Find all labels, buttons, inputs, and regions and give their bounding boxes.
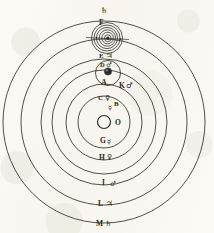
label-E: E [99, 52, 104, 60]
jupiter-symbol-E: ♃ [106, 51, 113, 60]
label-M: M [96, 219, 103, 228]
label-I: I [102, 178, 105, 187]
orbit-circle-C [66, 84, 142, 160]
saturn-symbol-top: ♄ [100, 6, 107, 15]
label-D: D [100, 61, 105, 68]
earth-body-highlight [106, 69, 108, 71]
venus-symbol-H: ♀ [107, 153, 112, 161]
label-L: L [98, 199, 103, 208]
venus-symbol-C: ♀ [105, 94, 110, 102]
mars-symbol-K: ♂ [126, 81, 133, 90]
sun-label: O [115, 118, 121, 127]
jupiter-symbol-L: ♃ [106, 199, 113, 208]
orbit-circles [3, 21, 205, 223]
lower-label-group: G ☿ H ♀ I ♂ L ♃ M ♄ [96, 136, 116, 228]
orbit-circle-F [3, 21, 205, 223]
orbit-diagram: O ♄ F E ♃ D ♂ A [0, 0, 214, 233]
mars-symbol-D: ♂ [106, 61, 112, 69]
label-K: K [119, 81, 125, 90]
satellite-moon-b [96, 37, 98, 39]
label-A: A [101, 78, 107, 87]
sun-disc [98, 116, 111, 129]
label-H: H [99, 153, 105, 162]
label-C: C [98, 94, 103, 102]
label-B: B [114, 100, 119, 108]
saturn-symbol-M: ♄ [105, 219, 112, 228]
mars-symbol-I: ♂ [110, 180, 116, 188]
saturn-moon-system [86, 23, 129, 54]
label-G: G [100, 136, 106, 145]
astronomy-plate: O ♄ F E ♃ D ♂ A [0, 0, 214, 233]
mercury-symbol-G: ☿ [107, 138, 111, 146]
mercury-symbol-B: ☿ [108, 104, 112, 112]
satellite-moon-a [119, 38, 121, 40]
label-F-top: F [99, 18, 104, 27]
